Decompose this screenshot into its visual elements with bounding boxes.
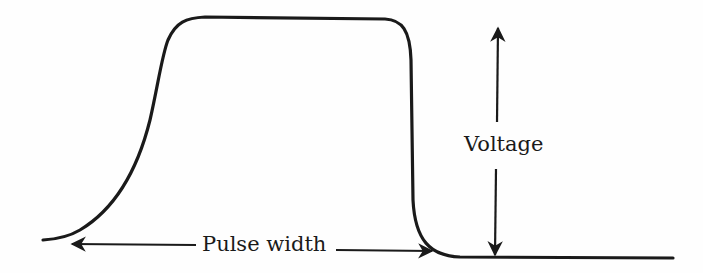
pulse-width-arrow-left	[72, 244, 196, 245]
pulse-diagram-graphic	[0, 0, 703, 273]
voltage-arrow-up	[497, 28, 498, 122]
voltage-arrow-down	[495, 169, 496, 255]
voltage-label: Voltage	[464, 134, 543, 155]
pulse-width-label: Pulse width	[202, 234, 326, 255]
pulse-width-arrow-right	[336, 250, 432, 251]
pulse-diagram: Pulse width Voltage	[0, 0, 703, 273]
pulse-curve	[43, 17, 673, 258]
